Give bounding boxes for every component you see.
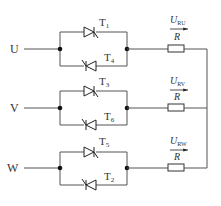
phase-label-w: W — [7, 161, 19, 175]
thyristor-icon — [84, 86, 98, 97]
voltage-label-ru: URU — [170, 14, 186, 26]
circuit-diagram: U T1 T4 URU R V — [0, 0, 221, 206]
resistor-icon — [168, 104, 184, 111]
thyristor-icon — [82, 60, 96, 71]
thyristor-icon — [82, 179, 96, 190]
label-t6: T6 — [104, 110, 115, 124]
resistance-label: R — [173, 151, 180, 162]
voltage-label-rv: URV — [170, 75, 186, 87]
phase-w: W T5 T2 URW R — [7, 135, 207, 190]
thyristor-icon — [84, 27, 98, 38]
label-t3: T3 — [99, 75, 110, 89]
label-t5: T5 — [99, 135, 110, 149]
phase-u: U T1 T4 URU R — [10, 14, 207, 71]
label-t1: T1 — [99, 16, 110, 30]
voltage-label-rw: URW — [170, 135, 187, 147]
phase-label-u: U — [10, 42, 19, 56]
thyristor-icon — [84, 147, 98, 158]
phase-label-v: V — [10, 101, 19, 115]
thyristor-icon — [82, 119, 96, 130]
resistor-icon — [168, 45, 184, 52]
resistance-label: R — [173, 91, 180, 102]
label-t4: T4 — [104, 51, 115, 65]
label-t2: T2 — [104, 170, 115, 184]
phase-v: V T3 T6 URV R — [10, 75, 207, 130]
resistor-icon — [168, 164, 184, 171]
resistance-label: R — [173, 31, 180, 42]
